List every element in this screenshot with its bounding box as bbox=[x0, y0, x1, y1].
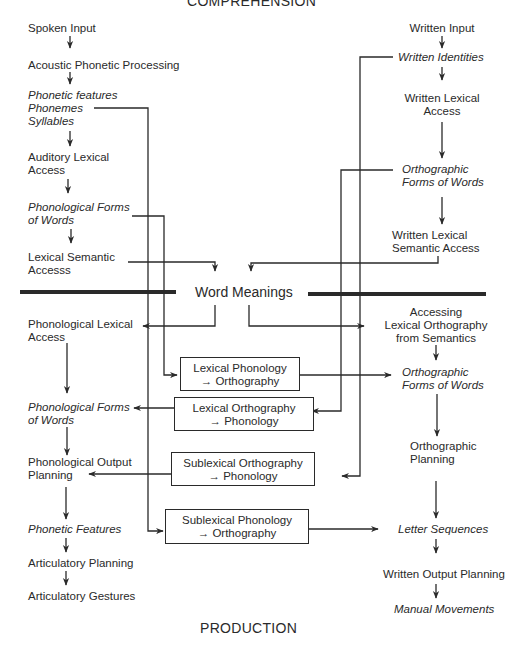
written-identities-node: Written Identities bbox=[398, 51, 515, 64]
box-line2: → Orthography bbox=[166, 527, 308, 540]
auditory-lexical-access-line1: Auditory Lexical bbox=[28, 151, 109, 164]
orthographic-planning-line1: Orthographic bbox=[410, 440, 476, 453]
accessing-line1: Accessing bbox=[366, 306, 506, 319]
written-lexical-access-line2: Access bbox=[380, 105, 504, 118]
phonological-output-planning-line2: Planning bbox=[28, 469, 73, 482]
phonological-forms-prod-line2: of Words bbox=[28, 414, 74, 427]
written-output-planning-node: Written Output Planning bbox=[383, 568, 505, 581]
written-lexical-semantic-access-line1: Written Lexical bbox=[392, 229, 467, 242]
sublexical-orthography-to-phonology-box: Sublexical Orthography → Phonology bbox=[171, 452, 315, 486]
orthographic-forms-prod-line1: Orthographic bbox=[402, 366, 468, 379]
box-line1: Lexical Orthography bbox=[175, 402, 313, 415]
phonological-output-planning-line1: Phonological Output bbox=[28, 456, 132, 469]
auditory-lexical-access-line2: Access bbox=[28, 164, 65, 177]
written-lexical-semantic-access-line2: Semantic Access bbox=[392, 242, 480, 255]
accessing-line2: Lexical Orthography bbox=[366, 319, 506, 332]
box-line2: → Phonology bbox=[175, 415, 313, 428]
box-line1: Lexical Phonology bbox=[181, 362, 299, 375]
written-lexical-access-line1: Written Lexical bbox=[380, 92, 504, 105]
articulatory-planning-node: Articulatory Planning bbox=[28, 557, 133, 570]
phonological-lexical-access-line1: Phonological Lexical bbox=[28, 318, 133, 331]
phonemes-label: Phonemes bbox=[28, 102, 83, 115]
spoken-input-node: Spoken Input bbox=[28, 22, 96, 35]
sublexical-phonology-to-orthography-box: Sublexical Phonology → Orthography bbox=[165, 509, 309, 544]
accessing-line3: from Semantics bbox=[366, 332, 506, 345]
orthographic-planning-line2: Planning bbox=[410, 453, 455, 466]
phonological-lexical-access-line2: Access bbox=[28, 331, 65, 344]
orthographic-forms-line1: Orthographic bbox=[402, 163, 468, 176]
phonological-forms-prod-line1: Phonological Forms bbox=[28, 401, 130, 414]
syllables-label: Syllables bbox=[28, 115, 74, 128]
phonetic-features-production-node: Phonetic Features bbox=[28, 523, 121, 536]
box-line1: Sublexical Orthography bbox=[172, 457, 314, 470]
word-meanings-node: Word Meanings bbox=[195, 284, 293, 300]
production-title: PRODUCTION bbox=[200, 620, 297, 636]
phonetic-features-label: Phonetic features bbox=[28, 89, 118, 102]
phonological-forms-line2: of Words bbox=[28, 214, 74, 227]
acoustic-phonetic-processing-node: Acoustic Phonetic Processing bbox=[28, 59, 180, 72]
written-input-node: Written Input bbox=[380, 22, 504, 35]
lexical-semantic-access-line1: Lexical Semantic bbox=[28, 251, 115, 264]
lexical-semantic-access-line2: Accesss bbox=[28, 264, 71, 277]
articulatory-gestures-node: Articulatory Gestures bbox=[28, 590, 135, 603]
orthographic-forms-line2: Forms of Words bbox=[402, 176, 484, 189]
box-line2: → Phonology bbox=[172, 470, 314, 483]
orthographic-forms-prod-line2: Forms of Words bbox=[402, 379, 484, 392]
comprehension-title: COMPREHENSION bbox=[187, 0, 316, 9]
box-line1: Sublexical Phonology bbox=[166, 514, 308, 527]
lexical-phonology-to-orthography-box: Lexical Phonology → Orthography bbox=[180, 357, 300, 391]
manual-movements-node: Manual Movements bbox=[394, 603, 494, 616]
lexical-orthography-to-phonology-box: Lexical Orthography → Phonology bbox=[174, 397, 314, 431]
letter-sequences-node: Letter Sequences bbox=[398, 523, 488, 536]
box-line2: → Orthography bbox=[181, 375, 299, 388]
phonological-forms-line1: Phonological Forms bbox=[28, 201, 130, 214]
